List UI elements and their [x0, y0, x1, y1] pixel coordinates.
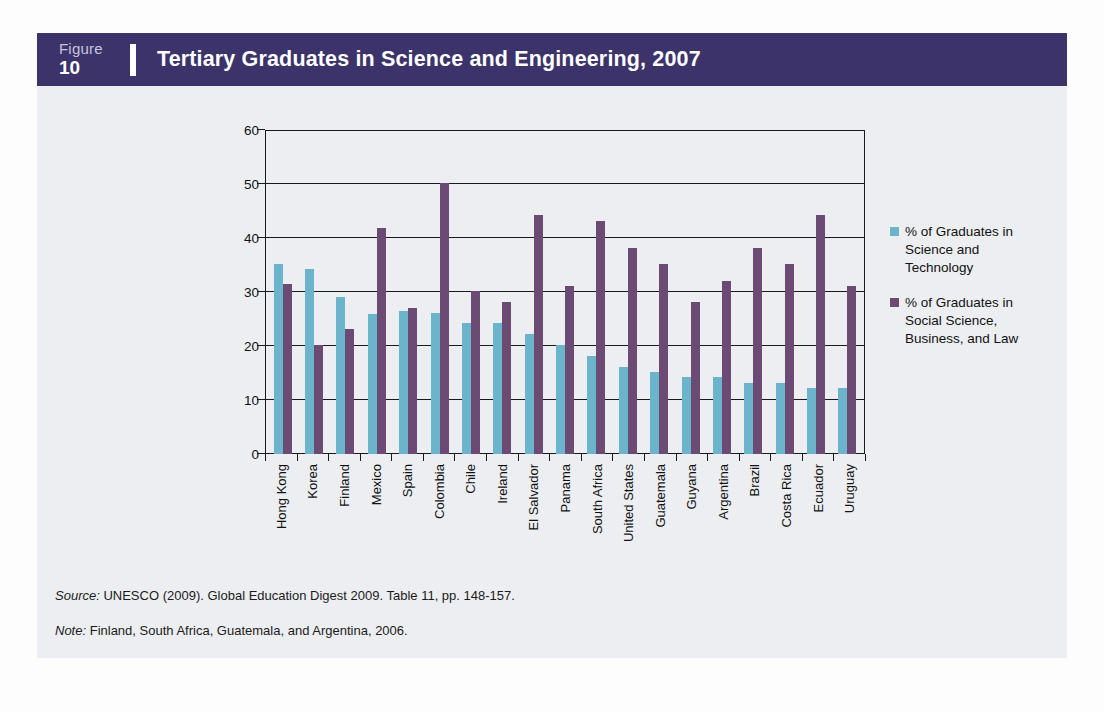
x-axis-label-cell: El Salvador [518, 458, 550, 558]
x-axis-label-cell: Costa Rica [770, 458, 802, 558]
bar-series-container [265, 130, 865, 454]
note-text: Finland, South Africa, Guatemala, and Ar… [86, 623, 408, 638]
x-axis-label: Ireland [494, 464, 509, 504]
x-axis-label-cell: Korea [297, 458, 329, 558]
header-divider-rule [130, 44, 136, 76]
bar [431, 313, 440, 454]
x-axis-label: Hong Kong [273, 464, 288, 529]
x-axis-label: Finland [336, 464, 351, 507]
x-axis-label-cell: South Africa [581, 458, 613, 558]
x-axis-label-cell: Uruguay [833, 458, 865, 558]
x-axis-label-cell: Mexico [360, 458, 392, 558]
x-axis-label: Argentina [715, 464, 730, 520]
y-axis-tick-label: 60 [225, 123, 259, 138]
y-axis-tick-label: 10 [225, 393, 259, 408]
bar [785, 264, 794, 454]
bar [596, 221, 605, 454]
bar [493, 323, 502, 454]
bar [682, 377, 691, 454]
bar-group [706, 130, 737, 454]
figure-number: 10 [59, 58, 130, 78]
bar-group [549, 130, 580, 454]
bar [534, 215, 543, 454]
bar-group [455, 130, 486, 454]
bar [305, 269, 314, 454]
x-axis-label: Ecuador [810, 464, 825, 512]
bar-group [393, 130, 424, 454]
y-axis-tick-label: 0 [225, 447, 259, 462]
x-axis-label: Brazil [747, 464, 762, 497]
x-axis-label-cell: Argentina [707, 458, 739, 558]
bar [525, 334, 534, 454]
x-axis-label-cell: Guatemala [644, 458, 676, 558]
x-axis-label-cell: Hong Kong [265, 458, 297, 558]
bar [776, 383, 785, 454]
x-axis-tick [865, 454, 866, 461]
chart-legend: % of Graduates in Science and Technology… [890, 223, 1040, 365]
bar [619, 367, 628, 454]
bar [650, 372, 659, 454]
bar [274, 264, 283, 454]
legend-swatch-icon [890, 227, 899, 236]
x-axis-label-cell: Panama [549, 458, 581, 558]
bar [659, 264, 668, 454]
x-axis-label-cell: United States [612, 458, 644, 558]
x-axis-label-cell: Finland [328, 458, 360, 558]
y-axis-tick-label: 20 [225, 339, 259, 354]
bar [471, 291, 480, 454]
y-axis-tick-label: 30 [225, 285, 259, 300]
bar [838, 388, 847, 454]
legend-label: % of Graduates in Social Science, Busine… [905, 294, 1040, 348]
bar-group [267, 130, 298, 454]
x-axis-label: Guatemala [652, 464, 667, 528]
x-axis-label: Spain [400, 464, 415, 497]
y-axis-tick-label: 50 [225, 177, 259, 192]
x-axis-label-cell: Spain [391, 458, 423, 558]
x-axis-label: Korea [305, 464, 320, 499]
source-text: UNESCO (2009). Global Education Digest 2… [100, 588, 515, 603]
note-line: Note: Finland, South Africa, Guatemala, … [55, 623, 408, 638]
bar [377, 228, 386, 454]
y-axis-tick-label: 40 [225, 231, 259, 246]
bar [502, 302, 511, 454]
source-label: Source: [55, 588, 100, 603]
bar [462, 323, 471, 454]
bar-group [738, 130, 769, 454]
x-axis-label-cell: Ecuador [802, 458, 834, 558]
bar-group [424, 130, 455, 454]
bar [628, 248, 637, 454]
x-axis-labels: Hong KongKoreaFinlandMexicoSpainColombia… [265, 458, 865, 558]
bar [399, 311, 408, 454]
bar [753, 248, 762, 454]
bar-group [581, 130, 612, 454]
x-axis-label-cell: Chile [454, 458, 486, 558]
figure-page: Figure 10 Tertiary Graduates in Science … [0, 0, 1104, 712]
x-axis-label: Costa Rica [779, 464, 794, 528]
bar [722, 281, 731, 454]
bar-group [361, 130, 392, 454]
bar [283, 284, 292, 454]
page-title: Tertiary Graduates in Science and Engine… [157, 47, 701, 72]
bar [565, 286, 574, 454]
bar [847, 286, 856, 454]
bar [816, 215, 825, 454]
figure-header: Figure 10 Tertiary Graduates in Science … [37, 33, 1067, 86]
x-axis-label-cell: Brazil [739, 458, 771, 558]
x-axis-label: Uruguay [842, 464, 857, 513]
bar-group [675, 130, 706, 454]
figure-label-block: Figure 10 [37, 41, 130, 79]
bar-group [769, 130, 800, 454]
x-axis-label: Chile [463, 464, 478, 494]
x-axis-label: Colombia [431, 464, 446, 519]
legend-swatch-icon [890, 298, 899, 307]
plot-wrapper: 0102030405060 [265, 130, 865, 454]
x-axis-label: Panama [557, 464, 572, 512]
bar [345, 329, 354, 454]
x-axis-label: South Africa [589, 464, 604, 534]
legend-label: % of Graduates in Science and Technology [905, 223, 1040, 277]
chart-area: Percent of total tertiary graduates 0102… [37, 86, 1067, 658]
bar [556, 345, 565, 454]
bar-group [832, 130, 863, 454]
bar [408, 308, 417, 454]
note-label: Note: [55, 623, 86, 638]
